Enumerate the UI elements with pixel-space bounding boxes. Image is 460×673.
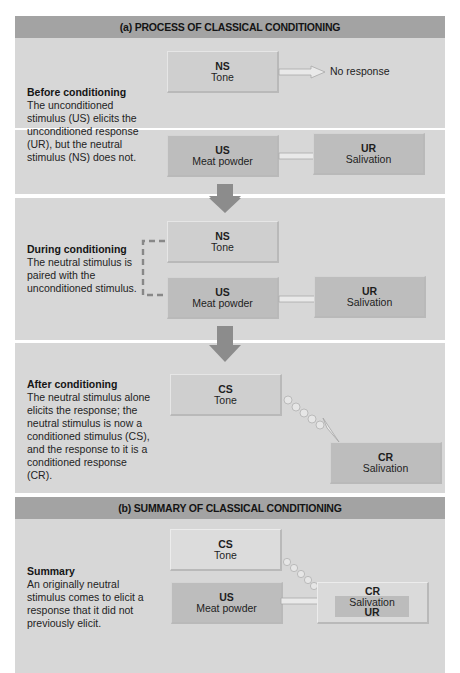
- after-body: The neutral stimulus alone elicits the r…: [27, 391, 150, 481]
- summary-body: An originally neutral stimulus comes to …: [27, 578, 144, 629]
- us-abbr: US: [168, 145, 277, 156]
- right-arrow-icon: [263, 64, 333, 80]
- section-b-header: (b) SUMMARY OF CLASSICAL CONDITIONING: [15, 497, 445, 519]
- ur-abbr: UR: [315, 286, 424, 297]
- down-arrow-icon: [208, 343, 242, 363]
- us-label: Meat powder: [168, 298, 277, 309]
- cr-label: Salivation: [331, 463, 440, 474]
- before-body: The unconditioned stimulus (US) elicits …: [27, 99, 139, 163]
- no-response-label: No response: [330, 65, 390, 77]
- cs-abbr: CS: [171, 384, 280, 395]
- down-arrow-icon: [208, 326, 242, 342]
- summary-heading: Summary: [27, 565, 147, 578]
- ur-label: Salivation: [314, 154, 423, 165]
- ur-abbr: UR: [335, 607, 409, 617]
- ns-label: Tone: [168, 242, 277, 253]
- cr-label: Salivation: [335, 597, 409, 607]
- during-heading: During conditioning: [27, 243, 152, 256]
- ur-label: Salivation: [315, 297, 424, 308]
- cs-label: Tone: [171, 395, 280, 406]
- summary-description: Summary An originally neutral stimulus c…: [27, 565, 147, 630]
- ns-abbr: NS: [168, 61, 277, 72]
- cs-box-summary: CS Tone: [170, 529, 282, 571]
- ur-box-during: UR Salivation: [314, 276, 426, 318]
- ur-abbr: UR: [314, 143, 423, 154]
- before-heading: Before conditioning: [27, 86, 152, 99]
- during-body: The neutral stimulus is paired with the …: [27, 256, 137, 294]
- ns-abbr: NS: [168, 231, 277, 242]
- ur-box-before: UR Salivation: [313, 133, 425, 175]
- section-a-header: (a) PROCESS OF CLASSICAL CONDITIONING: [15, 16, 445, 38]
- classical-conditioning-diagram: (a) PROCESS OF CLASSICAL CONDITIONING Be…: [15, 16, 445, 611]
- after-heading: After conditioning: [27, 378, 152, 391]
- cr-box-after: CR Salivation: [330, 442, 442, 484]
- during-description: During conditioning The neutral stimulus…: [27, 243, 152, 295]
- ns-box-during: NS Tone: [167, 221, 279, 263]
- us-abbr: US: [168, 287, 277, 298]
- before-description: Before conditioning The unconditioned st…: [27, 86, 152, 164]
- cs-abbr: CS: [171, 539, 280, 550]
- cr-abbr: CR: [331, 452, 440, 463]
- cs-box-after: CS Tone: [170, 374, 282, 416]
- cs-label: Tone: [171, 550, 280, 561]
- ur-inner-box: Salivation UR: [335, 596, 409, 617]
- down-arrow-icon: [208, 198, 242, 214]
- ns-label: Tone: [168, 72, 277, 83]
- after-description: After conditioning The neutral stimulus …: [27, 378, 152, 482]
- us-label: Meat powder: [168, 156, 277, 167]
